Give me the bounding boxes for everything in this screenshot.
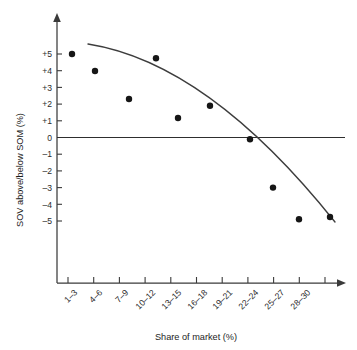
y-tick-label: +2 [42, 99, 52, 109]
x-tick-label: 7–9 [113, 287, 130, 304]
data-points [69, 51, 333, 223]
y-axis-title: SOV above/below SOM (%) [15, 113, 25, 227]
y-tick-label: –2 [42, 166, 52, 176]
y-tick-label: +4 [42, 66, 52, 76]
y-tick-label: –4 [42, 200, 52, 210]
x-tick-label: 4–6 [87, 287, 104, 304]
x-axis [57, 279, 346, 287]
scatter-plot: +5 +4 +3 +2 +1 0 –1 –2 –3 –4 –5 [0, 0, 357, 350]
trend-curve [88, 44, 335, 222]
data-point [327, 214, 333, 220]
data-point [92, 68, 98, 74]
data-point [207, 103, 213, 109]
data-point [69, 51, 75, 57]
x-axis-title: Share of market (%) [155, 332, 237, 342]
data-point [126, 96, 132, 102]
x-tick-label: 10–12 [133, 287, 157, 311]
x-tick-label: 25–27 [262, 287, 286, 311]
x-tick-labels: 1–3 4–6 7–9 10–12 13–15 16–18 19–21 22–2… [62, 287, 312, 311]
y-tick-label: +5 [42, 49, 52, 59]
chart-container: +5 +4 +3 +2 +1 0 –1 –2 –3 –4 –5 [0, 0, 357, 350]
x-tick-label: 1–3 [62, 287, 79, 304]
y-tick-label: –3 [42, 183, 52, 193]
y-tick-label: +3 [42, 83, 52, 93]
data-point [153, 55, 159, 61]
x-tick-marks [68, 277, 325, 283]
y-tick-label: –5 [42, 216, 52, 226]
x-tick-label: 22–24 [236, 287, 260, 311]
x-axis-arrow-icon [337, 279, 346, 287]
data-point [270, 184, 276, 190]
x-tick-label: 19–21 [210, 287, 234, 311]
x-tick-label: 16–18 [185, 287, 209, 311]
data-point [175, 115, 181, 121]
y-tick-label: –1 [42, 149, 52, 159]
x-tick-label: 13–15 [159, 287, 183, 311]
y-tick-labels: +5 +4 +3 +2 +1 0 –1 –2 –3 –4 –5 [42, 49, 52, 226]
data-point [296, 216, 302, 222]
data-point [247, 136, 253, 142]
y-tick-label: +1 [42, 116, 52, 126]
x-tick-label: 28–30 [288, 287, 312, 311]
y-axis-arrow-icon [53, 13, 61, 22]
y-tick-label: 0 [47, 133, 52, 143]
